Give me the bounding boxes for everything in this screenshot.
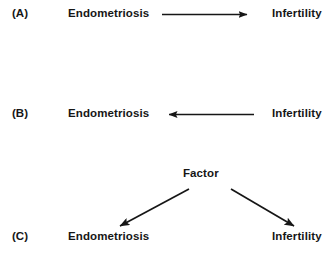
panel-label-b: (B) — [12, 108, 28, 120]
causal-diagram-figure: (A) Endometriosis Infertility (B) Endome… — [0, 0, 335, 259]
panel-b-right-node: Infertility — [272, 108, 322, 120]
panel-c-right-node: Infertility — [272, 231, 322, 243]
arrow-panel-c-left — [120, 189, 189, 226]
panel-label-a: (A) — [12, 8, 28, 20]
panel-label-c: (C) — [12, 231, 28, 243]
arrow-panel-c-right — [231, 189, 294, 226]
panel-a-right-node: Infertility — [272, 8, 322, 20]
panel-b-left-node: Endometriosis — [68, 108, 149, 120]
arrow-layer — [0, 0, 335, 259]
panel-c-left-node: Endometriosis — [68, 231, 149, 243]
panel-a-left-node: Endometriosis — [68, 8, 149, 20]
panel-c-top-node: Factor — [183, 168, 219, 180]
